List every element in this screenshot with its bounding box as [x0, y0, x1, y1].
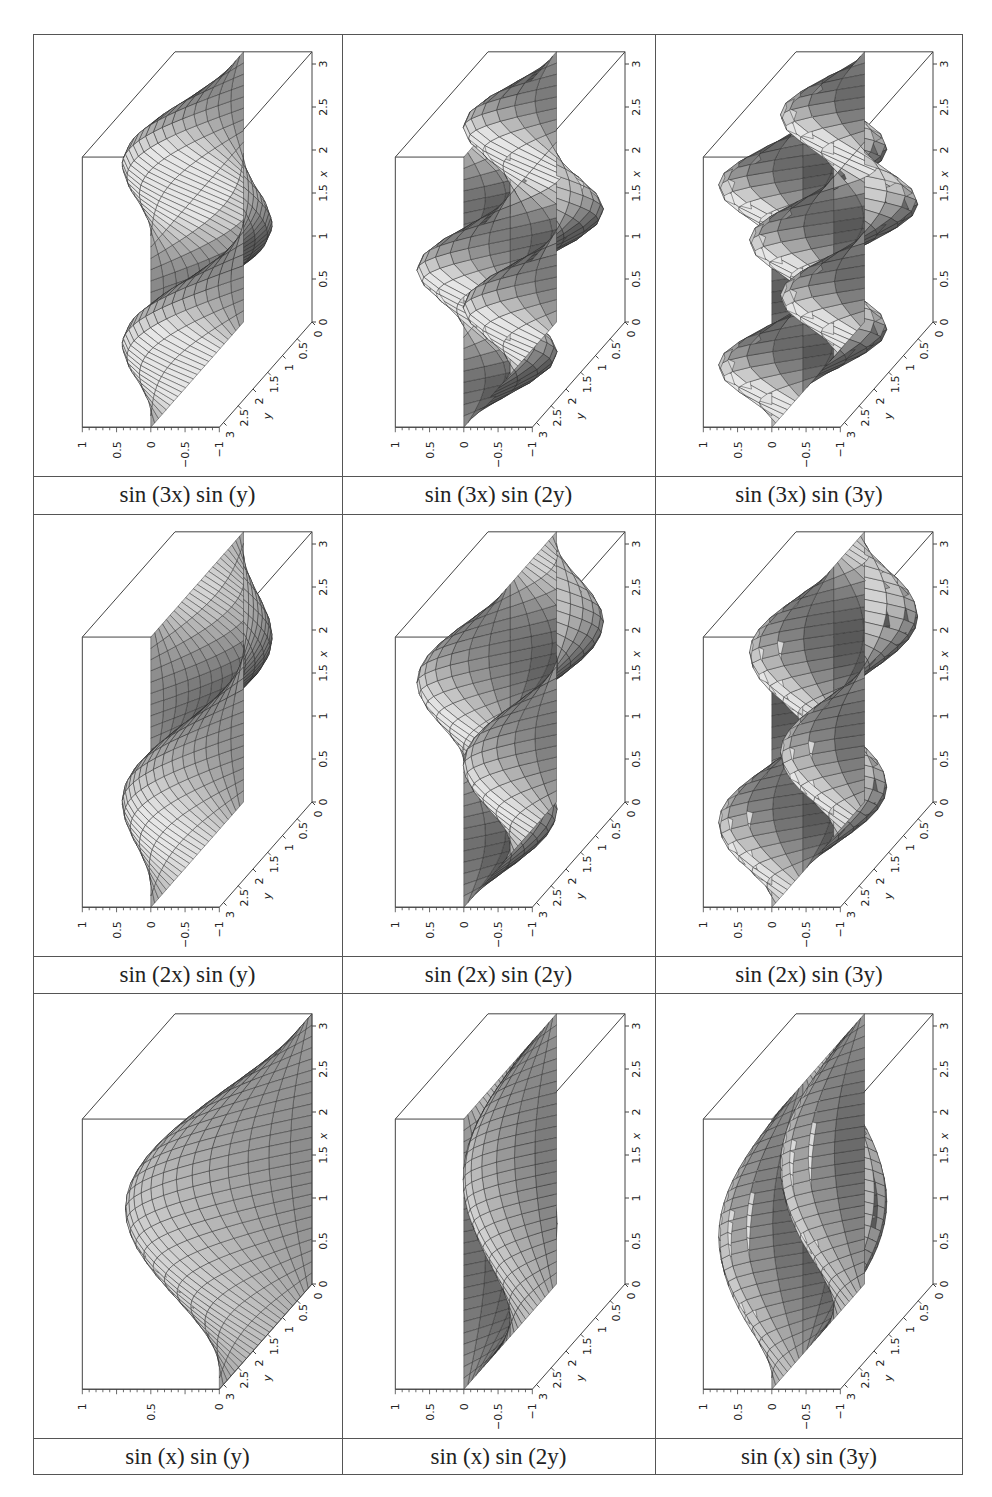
y-tick-label: 1	[283, 364, 296, 371]
y-tick-label: 0.5	[918, 1304, 931, 1322]
x-tick-label: 0.5	[630, 750, 643, 768]
surface-plot: 00.511.522.53x00.511.522.53y−1−0.500.51	[655, 34, 963, 476]
x-tick-label: 1	[938, 233, 951, 240]
y-tick-label: 2	[874, 878, 887, 885]
x-tick-label: 2.5	[317, 1060, 330, 1078]
y-tick-label: 0	[312, 1293, 325, 1300]
z-tick-label: 1	[389, 921, 402, 928]
y-tick-label: 2.5	[238, 889, 251, 907]
x-tick-label: 0.5	[938, 1232, 951, 1250]
y-tick-label: 3	[537, 431, 550, 438]
z-tick-label: −0.5	[179, 441, 192, 468]
x-tick-label: 2	[938, 1109, 951, 1116]
z-tick-label: 0	[458, 441, 471, 448]
x-tick-label: 0.5	[317, 1232, 330, 1250]
x-tick-label: 3	[630, 61, 643, 68]
y-tick-label: 2	[566, 398, 579, 405]
y-axis-label: y	[261, 892, 274, 900]
x-tick-label: 0.5	[630, 270, 643, 288]
y-tick-label: 0	[933, 1293, 946, 1300]
x-tick-label: 0	[630, 319, 643, 326]
x-tick-label: 1.5	[317, 664, 330, 682]
surface-plot: 00.511.522.53x00.511.522.53y−1−0.500.51	[342, 34, 655, 476]
y-tick-label: 1	[596, 364, 609, 371]
z-tick-label: 0.5	[424, 441, 437, 459]
x-tick-label: 2.5	[317, 98, 330, 116]
y-tick-label: 2.5	[551, 889, 564, 907]
x-tick-label: 0.5	[938, 270, 951, 288]
z-tick-label: −0.5	[492, 1403, 505, 1430]
x-tick-label: 2.5	[938, 578, 951, 596]
z-tick-label: 0.5	[145, 1403, 158, 1421]
x-tick-label: 3	[317, 61, 330, 68]
y-tick-label: 0	[933, 331, 946, 338]
x-tick-label: 1.5	[630, 1146, 643, 1164]
x-tick-label: 1	[938, 1195, 951, 1202]
y-tick-label: 2.5	[859, 409, 872, 427]
z-tick-label: 0.5	[732, 921, 745, 939]
x-tick-label: 0	[630, 799, 643, 806]
x-axis-label: x	[630, 170, 643, 178]
x-tick-label: 1.5	[938, 184, 951, 202]
y-tick-label: 2	[253, 398, 266, 405]
z-tick-label: 0	[145, 441, 158, 448]
x-tick-label: 0	[317, 319, 330, 326]
plot-caption: sin (2x) sin (2y)	[342, 956, 655, 993]
z-tick-label: 1	[76, 1403, 89, 1410]
x-tick-label: 2	[317, 1109, 330, 1116]
x-tick-label: 1.5	[938, 664, 951, 682]
y-tick-label: 0.5	[297, 342, 310, 360]
y-tick-label: 0.5	[610, 822, 623, 840]
surface-mesh	[122, 52, 272, 427]
y-tick-label: 1	[283, 1326, 296, 1333]
y-axis-label: y	[574, 412, 587, 420]
y-tick-label: 1.5	[268, 376, 281, 394]
x-tick-label: 2.5	[317, 578, 330, 596]
surface-plot: 00.511.522.53x00.511.522.53y−1−0.500.51	[33, 514, 342, 956]
x-tick-label: 1.5	[630, 184, 643, 202]
z-tick-label: 1	[389, 441, 402, 448]
x-tick-label: 2.5	[938, 98, 951, 116]
x-tick-label: 0.5	[317, 750, 330, 768]
y-tick-label: 1	[596, 1326, 609, 1333]
y-tick-label: 0.5	[918, 822, 931, 840]
x-tick-label: 1	[317, 233, 330, 240]
y-tick-label: 1.5	[889, 376, 902, 394]
y-tick-label: 1	[904, 364, 917, 371]
y-tick-label: 2.5	[551, 409, 564, 427]
x-tick-label: 0	[938, 319, 951, 326]
x-tick-label: 2	[938, 147, 951, 154]
x-tick-label: 2.5	[630, 1060, 643, 1078]
plot-caption: sin (3x) sin (3y)	[655, 476, 963, 514]
y-tick-label: 2	[566, 878, 579, 885]
x-tick-label: 3	[938, 61, 951, 68]
y-tick-label: 1.5	[268, 856, 281, 874]
z-tick-label: −0.5	[492, 441, 505, 468]
y-tick-label: 3	[224, 1393, 237, 1400]
z-tick-label: 0	[213, 1403, 226, 1410]
z-tick-label: −1	[526, 921, 539, 937]
z-tick-label: 0.5	[424, 921, 437, 939]
y-tick-label: 1.5	[268, 1338, 281, 1356]
y-tick-label: 1.5	[581, 376, 594, 394]
y-tick-label: 0.5	[297, 822, 310, 840]
x-tick-label: 1.5	[630, 664, 643, 682]
x-tick-label: 3	[630, 541, 643, 548]
y-tick-label: 1.5	[581, 1338, 594, 1356]
z-tick-label: −0.5	[800, 921, 813, 948]
x-tick-label: 3	[938, 1023, 951, 1030]
y-tick-label: 2.5	[859, 1371, 872, 1389]
x-tick-label: 2.5	[630, 578, 643, 596]
y-tick-label: 1.5	[889, 856, 902, 874]
y-tick-label: 2	[253, 878, 266, 885]
y-tick-label: 0	[312, 811, 325, 818]
z-tick-label: 0	[458, 921, 471, 928]
x-tick-label: 3	[630, 1023, 643, 1030]
plot-caption: sin (x) sin (2y)	[342, 1438, 655, 1475]
x-tick-label: 2.5	[938, 1060, 951, 1078]
x-tick-label: 3	[317, 1023, 330, 1030]
x-tick-label: 0.5	[938, 750, 951, 768]
surface-mesh	[463, 1014, 557, 1389]
plot-caption: sin (3x) sin (y)	[33, 476, 342, 514]
z-tick-label: −1	[834, 921, 847, 937]
